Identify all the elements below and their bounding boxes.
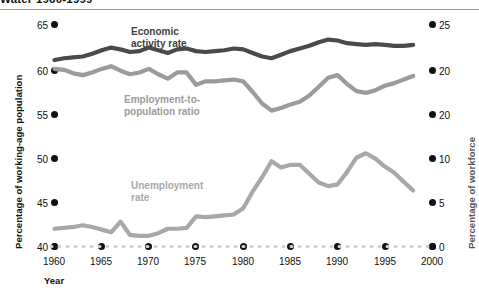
series-label-employment: Employment-to- population ratio xyxy=(124,94,200,118)
series-label-economic: Economic activity rate xyxy=(131,26,187,50)
series-line-economic xyxy=(55,40,414,60)
plot-area xyxy=(0,0,479,296)
chart-figure: Water 1960-1999 Percentage of working-ag… xyxy=(0,0,479,296)
series-line-employment xyxy=(55,66,414,110)
series-line-unemployment xyxy=(55,153,414,236)
series-label-unemployment: Unemployment rate xyxy=(131,180,203,204)
